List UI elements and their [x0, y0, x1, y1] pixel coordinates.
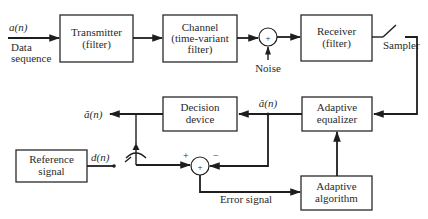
noise-summing-junction: + — [259, 28, 277, 46]
plus-sign-label: + — [183, 150, 189, 161]
minus-sign-label: − — [213, 150, 219, 161]
algorithm-label-1: Adaptive — [316, 180, 356, 192]
reference-contact — [112, 164, 116, 168]
decision-label-2: device — [186, 113, 215, 125]
error-sum-symbol: + — [197, 162, 202, 172]
channel-label-3: filter) — [187, 43, 212, 56]
adaptive-algorithm-block: Adaptive algorithm — [301, 176, 372, 210]
reference-output-label: d(n) — [91, 151, 110, 164]
sampler-switch — [372, 25, 396, 37]
input-symbol-label: a(n) — [9, 21, 28, 34]
algorithm-label-2: algorithm — [315, 192, 358, 204]
reference-signal-block: Reference signal — [16, 150, 87, 182]
channel-block: Channel (time-variant filter) — [163, 15, 237, 62]
reference-label-2: signal — [38, 165, 64, 177]
decision-device-block: Decision device — [163, 97, 237, 131]
equalizer-label-1: Adaptive — [317, 101, 357, 113]
adaptive-equalizer-block-diagram: a(n) Data sequence Transmitter (filter) … — [0, 0, 428, 219]
transmitter-block: Transmitter (filter) — [60, 15, 133, 62]
error-signal-arrow — [200, 175, 300, 192]
error-signal-label: Error signal — [220, 193, 272, 205]
equalizer-label-2: equalizer — [317, 113, 358, 125]
receiver-block: Receiver (filter) — [301, 15, 372, 61]
adaptive-equalizer-block: Adaptive equalizer — [302, 97, 372, 131]
receiver-label-1: Receiver — [317, 25, 356, 37]
noise-label: Noise — [255, 62, 281, 74]
decision-label-1: Decision — [180, 101, 220, 113]
transmitter-label-2: (filter) — [82, 38, 111, 51]
reference-label-1: Reference — [29, 153, 74, 165]
sampler-label: Sampler — [383, 39, 420, 51]
equalizer-output-label: â(n) — [259, 97, 278, 110]
error-summing-junction: + — [191, 157, 209, 175]
decision-output-label: ã(n) — [84, 108, 103, 121]
switch-contact-top — [133, 143, 140, 150]
sum-symbol: + — [265, 33, 270, 43]
transmitter-label-1: Transmitter — [71, 26, 122, 38]
input-desc-line2: sequence — [11, 52, 51, 64]
receiver-label-2: (filter) — [322, 37, 351, 50]
